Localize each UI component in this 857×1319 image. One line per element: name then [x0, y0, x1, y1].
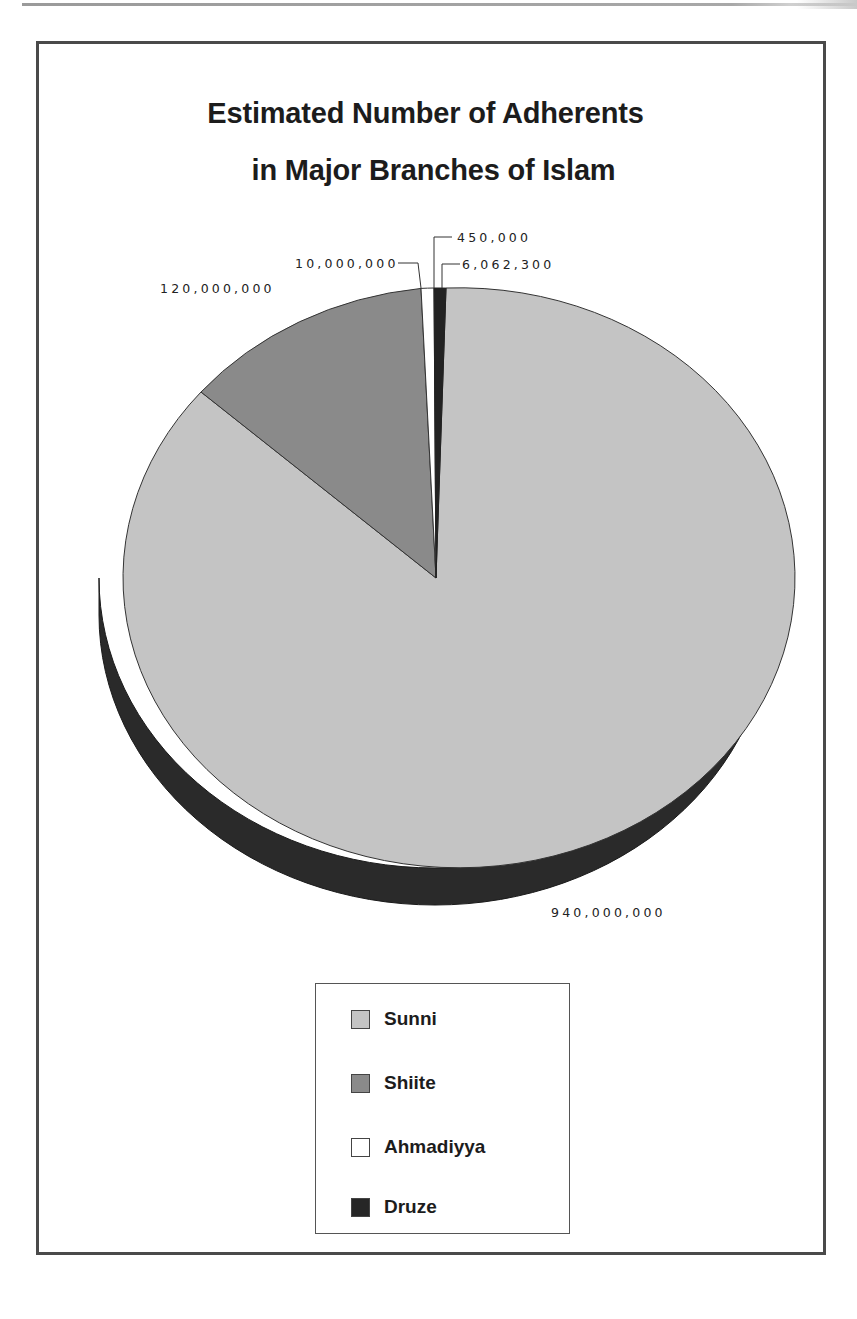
legend-item-shiite[interactable]: Shiite: [351, 1071, 436, 1095]
legend-label: Ahmadiyya: [384, 1136, 485, 1158]
legend-swatch-ahmadiyya: [351, 1138, 370, 1157]
legend-swatch-sunni: [351, 1010, 370, 1029]
legend: Sunni Shiite Ahmadiyya Druze: [315, 983, 570, 1234]
legend-label: Shiite: [384, 1072, 436, 1094]
legend-item-sunni[interactable]: Sunni: [351, 1007, 437, 1031]
legend-swatch-druze: [351, 1198, 370, 1217]
legend-label: Druze: [384, 1196, 437, 1218]
legend-swatch-shiite: [351, 1074, 370, 1093]
legend-item-ahmadiyya[interactable]: Ahmadiyya: [351, 1135, 485, 1159]
label-sunni: 940,000,000: [551, 905, 666, 920]
legend-item-druze[interactable]: Druze: [351, 1195, 437, 1219]
label-450000: 450,000: [457, 230, 531, 245]
label-ahmadiyya: 10,000,000: [295, 256, 399, 271]
leader-line-ahmadiyya: [398, 263, 421, 288]
leader-line-druze: [442, 264, 460, 288]
label-shiite: 120,000,000: [160, 281, 275, 296]
legend-label: Sunni: [384, 1008, 437, 1030]
label-druze: 6,062,300: [462, 257, 554, 272]
leader-line-450000: [434, 237, 452, 288]
